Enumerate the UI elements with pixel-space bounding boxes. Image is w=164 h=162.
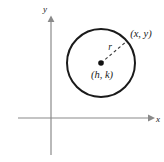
x-axis-arrowhead-icon bbox=[148, 115, 155, 122]
x-axis-label: x bbox=[155, 114, 160, 124]
point-on-circle-coordinates-label: (x, y) bbox=[130, 28, 152, 40]
radius-label: r bbox=[108, 42, 112, 52]
center-coordinates-label: (h, k) bbox=[91, 69, 114, 81]
y-axis-arrowhead-icon bbox=[48, 16, 55, 23]
radius-dashed-line bbox=[101, 41, 127, 63]
y-axis-label: y bbox=[42, 4, 47, 14]
circle-diagram-figure: y x r (h, k) (x, y) bbox=[0, 0, 164, 162]
center-point-dot bbox=[98, 60, 104, 66]
coordinate-plane-svg: y x r (h, k) (x, y) bbox=[0, 0, 164, 162]
